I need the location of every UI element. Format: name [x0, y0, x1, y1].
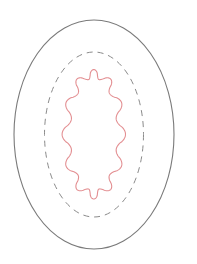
background [0, 0, 197, 264]
diagram-canvas [0, 0, 197, 264]
